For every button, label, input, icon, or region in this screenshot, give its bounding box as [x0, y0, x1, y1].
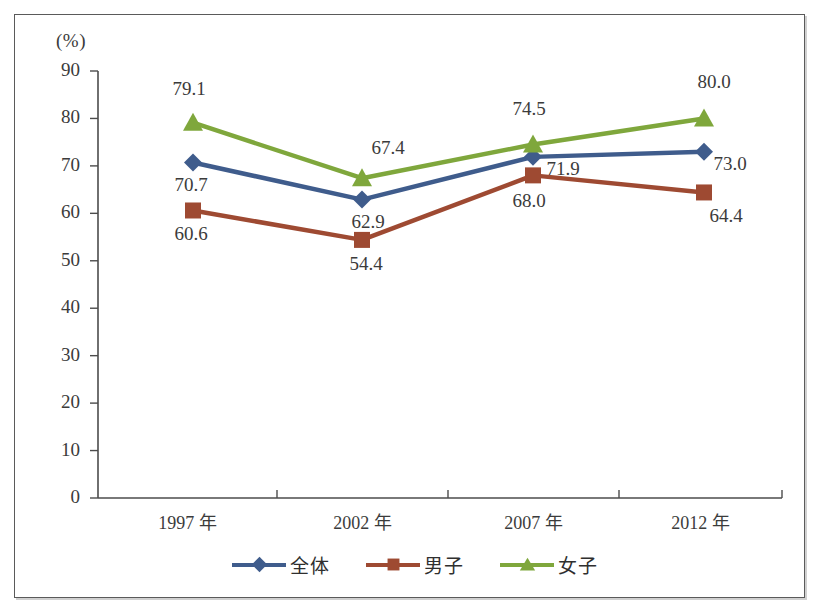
data-point-value-label: 70.7: [161, 174, 221, 196]
series-line: [193, 175, 704, 240]
data-point-value-label: 79.1: [159, 78, 219, 100]
y-axis-tick-label: 60: [36, 201, 80, 223]
legend-item-1: 全体: [232, 551, 330, 578]
legend-swatch: [366, 556, 420, 574]
square-marker-icon: [185, 202, 201, 218]
data-point-value-label: 62.9: [338, 211, 398, 233]
x-axis-tick-label: 2012 年: [631, 508, 771, 534]
square-marker-icon: [354, 232, 370, 248]
y-axis-tick-label: 10: [36, 439, 80, 461]
x-axis-tick-label: 1997 年: [118, 508, 258, 534]
diamond-marker-icon: [184, 154, 202, 172]
figure-page: (%) 0102030405060708090 1997 年2002 年2007…: [0, 0, 819, 616]
x-axis-tick-label: 2002 年: [293, 508, 433, 534]
legend-label: 男子: [424, 551, 464, 578]
square-marker-icon: [385, 556, 402, 573]
y-axis-tick-label: 30: [36, 344, 80, 366]
data-point-value-label: 71.9: [533, 158, 593, 180]
data-point-value-label: 54.4: [336, 253, 396, 275]
y-axis-tick-label: 90: [36, 59, 80, 81]
triangle-marker-icon: [519, 556, 536, 573]
data-point-value-label: 80.0: [684, 71, 744, 93]
data-point-value-label: 67.4: [358, 137, 418, 159]
y-axis-tick-label: 80: [36, 106, 80, 128]
y-axis-tick-label: 0: [36, 486, 80, 508]
square-marker-icon: [696, 184, 712, 200]
y-axis-ticks: [90, 71, 98, 498]
data-point-value-label: 73.0: [700, 153, 760, 175]
diamond-marker-icon: [353, 191, 371, 209]
axis-lines: [98, 71, 782, 498]
legend-swatch: [232, 556, 286, 574]
series-line: [193, 118, 704, 178]
x-axis-ticks: [277, 490, 782, 498]
data-point-value-label: 74.5: [499, 98, 559, 120]
figure-caption: [0, 604, 819, 616]
y-axis-tick-label: 20: [36, 391, 80, 413]
chart-legend: 全体男子女子: [232, 551, 598, 578]
diamond-marker-icon: [251, 556, 268, 573]
legend-label: 全体: [290, 551, 330, 578]
series-line: [193, 152, 704, 200]
legend-item-3: 女子: [500, 551, 598, 578]
data-point-value-label: 68.0: [499, 190, 559, 212]
y-axis-unit-label: (%): [56, 30, 86, 52]
data-point-value-label: 60.6: [161, 223, 221, 245]
x-axis-tick-label: 2007 年: [464, 508, 604, 534]
y-axis-tick-label: 40: [36, 296, 80, 318]
legend-label: 女子: [558, 551, 598, 578]
triangle-marker-icon: [183, 113, 203, 131]
series-layer: [183, 108, 714, 247]
data-point-value-label: 64.4: [696, 205, 756, 227]
y-axis-tick-label: 70: [36, 154, 80, 176]
legend-item-2: 男子: [366, 551, 464, 578]
legend-swatch: [500, 556, 554, 574]
y-axis-tick-label: 50: [36, 249, 80, 271]
